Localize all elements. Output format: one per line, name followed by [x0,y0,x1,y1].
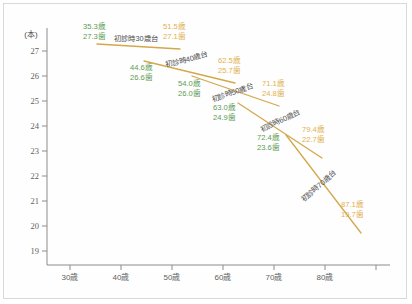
series-group-70s: 72.4歳 23.6歯 87.1歳 19.7歯 初診時70歳台 [257,132,364,219]
series-30s-start-teeth: 27.3歯 [83,31,106,41]
x-tick-label-40: 40歳 [113,272,130,282]
series-line-30s [97,44,180,49]
series-50s-end-teeth: 24.8歯 [262,88,285,98]
x-tick-label-60: 60歳 [215,272,232,282]
y-tick-label-19: 19 [31,246,40,256]
series-50s-start-age: 54.0歳 [178,78,201,88]
y-tick-label-23: 23 [31,146,40,156]
y-tick-label-20: 20 [31,221,40,231]
x-tick-label-70: 70歳 [266,272,283,282]
series-group-30s: 35.3歳 27.3歯 51.5歳 27.1歯 初診時30歳台 [83,21,186,43]
x-tick-label-80: 80歳 [317,272,334,282]
tooth-count-line-chart: 27 26 25 24 23 22 21 20 19 (本) 30歳 40歳 5… [0,0,412,304]
series-30s-name: 初診時30歳台 [114,34,157,43]
series-40s-start-teeth: 26.6歯 [130,72,153,82]
series-50s-end-age: 71.1歳 [262,78,285,88]
series-70s-start-teeth: 23.6歯 [257,142,280,152]
series-70s-end-age: 87.1歳 [341,199,364,209]
y-tick-group: 27 26 25 24 23 22 21 20 19 [31,46,48,256]
series-40s-end-age: 62.5歳 [218,55,241,65]
series-70s-name: 初診時70歳台 [299,169,338,204]
y-tick-label-24: 24 [31,121,40,131]
series-60s-start-teeth: 24.9歯 [213,112,236,122]
y-tick-label-26: 26 [31,71,40,81]
series-60s-end-age: 79.4歳 [302,124,325,134]
series-40s-end-teeth: 25.7歯 [218,65,241,75]
series-40s-start-age: 44.6歳 [130,62,153,72]
series-70s-end-teeth: 19.7歯 [341,209,364,219]
x-tick-label-30: 30歳 [62,272,79,282]
series-60s-start-age: 63.0歳 [213,102,236,112]
y-tick-label-21: 21 [31,196,40,206]
y-tick-label-27: 27 [31,46,40,56]
series-40s-name: 初診時40歳台 [164,50,208,69]
series-30s-end-teeth: 27.1歯 [163,31,186,41]
x-tick-group: 30歳 40歳 50歳 60歳 70歳 80歳 [62,265,376,282]
series-30s-end-age: 51.5歳 [163,21,186,31]
series-50s-start-teeth: 26.0歯 [178,88,201,98]
y-tick-label-25: 25 [31,96,40,106]
series-70s-start-age: 72.4歳 [257,132,280,142]
y-axis-unit-label: (本) [24,29,38,39]
x-tick-label-50: 50歳 [164,272,181,282]
y-tick-label-22: 22 [31,171,40,181]
series-30s-start-age: 35.3歳 [83,21,106,31]
series-group-40s: 44.6歳 26.6歯 62.5歳 25.7歯 初診時40歳台 [130,50,241,82]
series-60s-end-teeth: 22.7歯 [302,134,325,144]
